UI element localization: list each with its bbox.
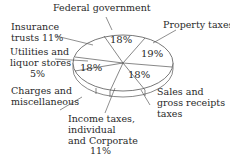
pct-federal: 18% <box>110 34 132 45</box>
label-charges-line1: Charges and <box>11 86 72 96</box>
label-utilities-line3: 5% <box>30 69 45 79</box>
label-federal-government: Federal government <box>53 3 151 13</box>
label-insurance-line2: trusts 11% <box>11 33 63 43</box>
label-insurance-line1: Insurance <box>11 22 59 32</box>
label-property-taxes: Property taxes <box>163 20 230 30</box>
label-sales-line3: taxes <box>157 109 182 119</box>
label-sales-line1: Sales and <box>157 87 204 97</box>
label-charges-line2: miscellaneous <box>11 97 79 107</box>
label-income-line4: 11% <box>90 146 111 155</box>
label-income-line1: Income taxes, <box>68 114 135 124</box>
pct-sales: 18% <box>128 69 150 80</box>
label-utilities-line1: Utilities and <box>10 47 69 57</box>
label-utilities-line2: liquor stores <box>10 58 71 68</box>
pct-property: 19% <box>141 48 163 59</box>
pct-charges: 18% <box>80 62 102 73</box>
label-sales-line2: gross receipts <box>157 98 225 108</box>
label-income-line2: individual <box>68 125 116 135</box>
